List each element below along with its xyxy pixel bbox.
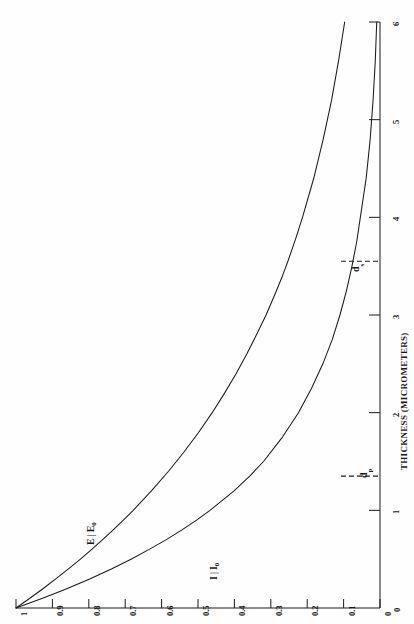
ratio-tick-label: 0.1 bbox=[348, 605, 357, 616]
thickness-tick-label: 4 bbox=[392, 217, 401, 221]
thickness-tick-label: 0 bbox=[393, 608, 402, 612]
axes-group bbox=[16, 22, 380, 608]
ratio-tick-label: 0.4 bbox=[238, 605, 247, 616]
ratio-tick-label: 0.3 bbox=[275, 605, 284, 616]
fraction-bar-icon: | bbox=[209, 572, 219, 574]
curve-label-e-subscript: 0 bbox=[90, 522, 98, 526]
ratio-tick-label: 0.2 bbox=[311, 605, 320, 616]
curve-label-e-numerator: E bbox=[85, 538, 96, 545]
ratio-tick-label: 0.6 bbox=[166, 605, 175, 616]
ratio-tick-label: 0.7 bbox=[129, 605, 138, 616]
marker-label-ds: ds bbox=[351, 264, 364, 272]
marker-label-dp-base: d bbox=[358, 472, 369, 478]
thickness-tick-label: 6 bbox=[392, 22, 401, 26]
curve-label-i-numerator: I bbox=[208, 576, 219, 580]
curve-label-i-over-i0: I|I0 bbox=[209, 563, 219, 580]
ratio-tick-label: 0.9 bbox=[56, 605, 65, 616]
thickness-tick-label: 3 bbox=[392, 315, 401, 319]
plot-area bbox=[0, 0, 414, 624]
curve-label-i-subscript: 0 bbox=[213, 563, 221, 567]
marker-label-dp-sub: p bbox=[366, 469, 374, 473]
ratio-tick-label: 0.5 bbox=[202, 605, 211, 616]
curve-label-e-over-e0: E|E0 bbox=[86, 522, 96, 545]
ratio-axis-ticks bbox=[16, 599, 380, 608]
thickness-tick-label: 1 bbox=[392, 510, 401, 514]
curve-label-i-denominator: I bbox=[208, 566, 219, 570]
marker-label-ds-base: d bbox=[350, 266, 361, 272]
data-curve-e-e0 bbox=[16, 22, 345, 608]
figure-canvas: 00.10.20.30.40.50.60.70.80.91 0123456 TH… bbox=[0, 0, 414, 624]
curve-label-e-denominator: E bbox=[85, 526, 96, 533]
marker-lines-group bbox=[341, 261, 381, 476]
ratio-tick-label: 0 bbox=[384, 612, 393, 616]
thickness-axis-title: THICKNESS (MICROMETERS) bbox=[400, 332, 409, 470]
marker-label-dp: dp bbox=[359, 469, 372, 478]
data-curve-i-i0 bbox=[16, 22, 377, 608]
ratio-tick-label: 1 bbox=[20, 612, 29, 616]
thickness-tick-label: 5 bbox=[392, 119, 401, 123]
ratio-tick-label: 0.8 bbox=[93, 605, 102, 616]
fraction-bar-icon: | bbox=[86, 534, 96, 536]
curves-group bbox=[16, 22, 377, 608]
thickness-axis-ticks bbox=[369, 22, 380, 510]
